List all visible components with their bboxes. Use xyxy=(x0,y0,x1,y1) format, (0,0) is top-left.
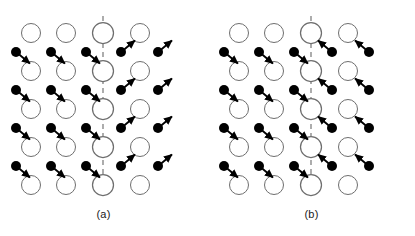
displacement-arrow xyxy=(262,169,272,178)
displaced-atom xyxy=(46,47,56,57)
displacement-arrow xyxy=(355,41,365,50)
lattice-site-on-twin-plane xyxy=(93,61,114,82)
displaced-atom xyxy=(289,47,299,57)
displaced-atom xyxy=(11,123,21,133)
displacement-arrow xyxy=(89,93,99,102)
lattice-site xyxy=(339,62,358,81)
lattice-site-on-twin-plane xyxy=(93,23,114,44)
lattice-site xyxy=(339,138,358,157)
displacement-arrow xyxy=(54,131,64,140)
displacement-arrow xyxy=(355,155,365,164)
displacement-arrow xyxy=(54,55,64,64)
lattice-site xyxy=(230,62,249,81)
lattice-site-on-twin-plane xyxy=(93,137,114,158)
displacement-arrow xyxy=(161,155,171,164)
panel-a: (a) xyxy=(0,0,207,236)
lattice-site xyxy=(57,100,76,119)
displaced-atom xyxy=(11,85,21,95)
displacement-arrow xyxy=(355,79,365,88)
lattice-site-on-twin-plane xyxy=(93,99,114,120)
lattice-site xyxy=(131,24,150,43)
displaced-atom xyxy=(153,85,163,95)
lattice-site xyxy=(57,176,76,195)
displacement-arrow xyxy=(262,55,272,64)
displaced-atom xyxy=(219,47,229,57)
displaced-atom xyxy=(153,161,163,171)
displacement-arrow xyxy=(297,169,307,178)
displacement-arrow xyxy=(318,117,328,126)
displacement-arrow xyxy=(124,41,134,50)
displaced-atom xyxy=(11,47,21,57)
lattice-site xyxy=(57,24,76,43)
displaced-atom xyxy=(289,85,299,95)
panel-a-lattice xyxy=(0,0,207,236)
displaced-atom xyxy=(364,161,374,171)
panel-b: (b) xyxy=(208,0,415,236)
lattice-site xyxy=(131,62,150,81)
displacement-arrow xyxy=(161,79,171,88)
displaced-atom xyxy=(153,47,163,57)
displaced-atom xyxy=(46,123,56,133)
displaced-atom xyxy=(327,85,337,95)
displaced-atom xyxy=(116,161,126,171)
lattice-site xyxy=(265,138,284,157)
displaced-atom xyxy=(81,85,91,95)
displaced-atom xyxy=(289,161,299,171)
displaced-atom xyxy=(116,123,126,133)
lattice-site xyxy=(339,100,358,119)
lattice-site-on-twin-plane xyxy=(93,175,114,196)
displaced-atom xyxy=(153,123,163,133)
lattice-site xyxy=(57,62,76,81)
displaced-atom xyxy=(254,123,264,133)
lattice-site xyxy=(265,100,284,119)
lattice-site xyxy=(131,138,150,157)
lattice-site xyxy=(230,176,249,195)
panel-b-lattice xyxy=(208,0,415,236)
lattice-site xyxy=(57,138,76,157)
lattice-site xyxy=(22,24,41,43)
displacement-arrow xyxy=(89,55,99,64)
displacement-arrow xyxy=(355,117,365,126)
displaced-atom xyxy=(327,47,337,57)
displacement-arrow xyxy=(124,117,134,126)
lattice-site xyxy=(22,100,41,119)
displacement-arrow xyxy=(262,93,272,102)
displaced-atom xyxy=(327,161,337,171)
displaced-atom xyxy=(364,47,374,57)
displacement-arrow xyxy=(227,93,237,102)
lattice-site xyxy=(22,176,41,195)
displacement-arrow xyxy=(19,131,29,140)
lattice-site xyxy=(22,138,41,157)
displaced-atom xyxy=(11,161,21,171)
displaced-atom xyxy=(364,123,374,133)
displaced-atom xyxy=(219,123,229,133)
displaced-atom xyxy=(46,85,56,95)
displacement-arrow xyxy=(227,55,237,64)
displaced-atom xyxy=(81,123,91,133)
displaced-atom xyxy=(116,47,126,57)
lattice-site xyxy=(131,176,150,195)
lattice-site xyxy=(230,138,249,157)
displaced-atom xyxy=(327,123,337,133)
displacement-arrow xyxy=(297,131,307,140)
displaced-atom xyxy=(219,161,229,171)
displacement-arrow xyxy=(262,131,272,140)
lattice-site xyxy=(230,100,249,119)
lattice-site xyxy=(265,62,284,81)
displaced-atom xyxy=(116,85,126,95)
displacement-arrow xyxy=(89,169,99,178)
lattice-site xyxy=(265,176,284,195)
lattice-site-on-twin-plane xyxy=(301,175,322,196)
twin-boundary-figure: (a) (b) xyxy=(0,0,415,236)
displacement-arrow xyxy=(19,93,29,102)
panel-b-caption: (b) xyxy=(208,208,415,220)
lattice-site xyxy=(339,24,358,43)
displaced-atom xyxy=(254,47,264,57)
displaced-atom xyxy=(364,85,374,95)
displaced-atom xyxy=(81,161,91,171)
displacement-arrow xyxy=(124,79,134,88)
displaced-atom xyxy=(46,161,56,171)
displacement-arrow xyxy=(227,131,237,140)
displacement-arrow xyxy=(227,169,237,178)
displacement-arrow xyxy=(19,55,29,64)
